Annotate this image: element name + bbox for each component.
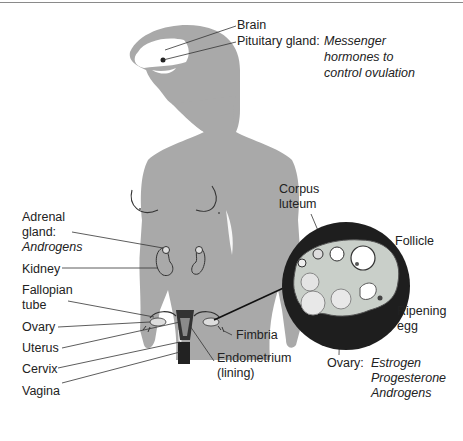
label-ovary: Ovary xyxy=(22,320,55,335)
label-vagina: Vagina xyxy=(22,384,60,399)
pituitary-note-1: Messenger xyxy=(324,34,386,49)
label-follicle: Follicle xyxy=(395,234,434,249)
label-pituitary: Pituitary gland: xyxy=(237,34,320,49)
ovary-hormone-1: Estrogen xyxy=(371,356,421,371)
label-endometrium-2: (lining) xyxy=(217,366,255,381)
label-ovary-detail: Ovary: xyxy=(327,356,364,371)
label-kidney: Kidney xyxy=(22,262,60,277)
ovary-inset xyxy=(282,222,410,350)
label-brain: Brain xyxy=(237,18,266,33)
label-adrenal-note: Androgens xyxy=(22,240,82,255)
label-uterus: Uterus xyxy=(22,341,59,356)
ovary-hormone-2: Progesterone xyxy=(371,371,446,386)
label-adrenal-2: gland: xyxy=(22,225,56,240)
label-fallopian-2: tube xyxy=(22,298,46,313)
label-fallopian-1: Fallopian xyxy=(22,283,73,298)
ovary-hormone-3: Androgens xyxy=(371,386,431,401)
label-fimbria: Fimbria xyxy=(236,328,278,343)
label-corpus-luteum-1: Corpus xyxy=(279,182,319,197)
label-ripening-egg-1: Ripening xyxy=(397,304,446,319)
label-ripening-egg-2: egg xyxy=(397,319,418,334)
label-endometrium-1: Endometrium xyxy=(217,351,291,366)
pituitary-note-2: hormones to xyxy=(324,50,393,65)
label-corpus-luteum-2: luteum xyxy=(279,197,317,212)
label-cervix: Cervix xyxy=(22,362,57,377)
label-adrenal-1: Adrenal xyxy=(22,210,65,225)
pituitary-note-3: control ovulation xyxy=(324,66,415,81)
